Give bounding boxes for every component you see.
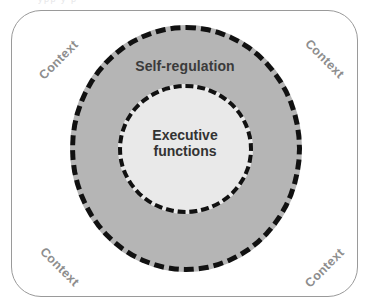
context-label-bottom-right: Context bbox=[302, 246, 347, 291]
diagram-canvas: ypp y p Context Context Context Context … bbox=[0, 0, 370, 307]
executive-functions-label-line2: functions bbox=[0, 143, 370, 159]
cropped-text-artifact: ypp y p bbox=[38, 0, 218, 4]
executive-functions-label: Executive functions bbox=[0, 127, 370, 159]
executive-functions-label-line1: Executive bbox=[0, 127, 370, 143]
context-label-bottom-left: Context bbox=[37, 245, 82, 290]
self-regulation-label: Self-regulation bbox=[0, 58, 370, 74]
